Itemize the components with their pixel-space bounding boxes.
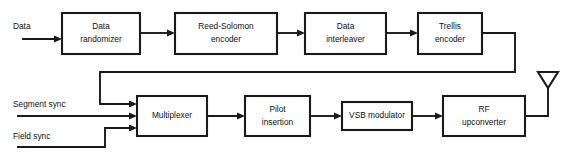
arrowhead-multiplexer-in-middle	[129, 112, 137, 119]
arrowhead-vsb-in	[334, 112, 342, 119]
arrowhead-interleaver-in	[297, 29, 305, 36]
block-label-trellis-encoder-line1: Trellis	[439, 21, 461, 31]
block-label-data-interleaver-line1: Data	[337, 21, 355, 31]
block-label-reed-solomon-encoder-line2: encoder	[211, 34, 241, 44]
arrowhead-data-randomizer-in	[54, 35, 62, 42]
input-label-data: Data	[13, 21, 31, 31]
block-label-reed-solomon-encoder-line1: Reed-Solomon	[198, 21, 254, 31]
block-diagram: Data randomizer Reed-Solomon encoder Dat…	[0, 0, 573, 161]
block-label-data-interleaver-line2: interleaver	[326, 34, 365, 44]
arrowhead-rs-in	[167, 29, 175, 36]
block-label-trellis-encoder-line2: encoder	[435, 34, 465, 44]
block-label-pilot-insertion-line2: insertion	[262, 117, 294, 127]
arrowhead-pilot-in	[237, 112, 245, 119]
block-label-data-randomizer-line1: Data	[92, 21, 110, 31]
diagram-canvas: Data randomizer Reed-Solomon encoder Dat…	[0, 0, 573, 161]
block-label-rf-upconverter-line2: upconverter	[462, 117, 506, 127]
arrowhead-multiplexer-in-top	[129, 100, 137, 107]
block-label-vsb-modulator: VSB modulator	[349, 110, 405, 120]
input-label-segment-sync: Segment sync	[13, 99, 66, 109]
block-label-multiplexer: Multiplexer	[152, 110, 192, 120]
input-label-field-sync: Field sync	[13, 131, 50, 141]
arrowhead-rf-in	[435, 112, 443, 119]
block-label-pilot-insertion-line1: Pilot	[269, 104, 286, 114]
arrowhead-multiplexer-in-bottom	[129, 124, 137, 131]
antenna-icon	[538, 72, 558, 88]
block-rf-upconverter	[443, 96, 525, 136]
block-pilot-insertion	[245, 96, 310, 136]
wire-rf-to-antenna	[525, 88, 548, 116]
block-label-data-randomizer-line2: randomizer	[80, 34, 122, 44]
block-label-rf-upconverter-line1: RF	[478, 104, 489, 114]
arrowhead-trellis-in	[410, 29, 418, 36]
